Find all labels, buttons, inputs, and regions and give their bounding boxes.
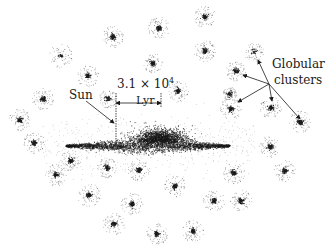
galaxy-diagram <box>0 0 329 249</box>
globular-cluster <box>259 136 278 157</box>
globular-cluster-halo <box>9 6 311 244</box>
globular-cluster <box>148 17 169 38</box>
globular-cluster <box>103 213 125 235</box>
globular-cluster <box>9 109 31 131</box>
globular-cluster <box>146 223 167 244</box>
globular-cluster <box>78 184 101 206</box>
globular-arrow <box>238 84 269 102</box>
annotations <box>86 60 300 146</box>
globular-arrow <box>269 84 300 119</box>
globular-cluster <box>128 159 150 181</box>
globular-cluster <box>144 54 163 73</box>
scale-exponent: 4 <box>169 76 174 85</box>
sun-arrow <box>86 101 114 123</box>
sun-label: Sun <box>69 89 93 101</box>
globular-cluster <box>226 61 245 81</box>
globular-cluster <box>78 66 100 88</box>
globular-cluster <box>289 111 311 133</box>
scale-value-label: 3.1 × 104 <box>117 77 174 90</box>
globular-cluster <box>245 43 263 62</box>
globular-cluster <box>100 91 117 109</box>
globular-cluster <box>183 220 204 242</box>
globular-cluster <box>50 44 73 68</box>
globular-cluster <box>274 160 296 182</box>
globular-cluster <box>203 191 225 211</box>
globular-clusters-label-line1: Globular <box>272 58 325 70</box>
globular-cluster <box>97 159 117 179</box>
galactic-disk <box>41 103 255 193</box>
globular-cluster <box>260 98 282 117</box>
globular-clusters-label-line2: clusters <box>274 74 322 86</box>
globular-cluster <box>194 41 215 62</box>
globular-cluster <box>230 190 252 211</box>
globular-cluster <box>32 88 54 110</box>
globular-cluster <box>164 176 185 197</box>
globular-cluster <box>104 26 125 48</box>
scale-mantissa: 3.1 × 10 <box>117 77 169 91</box>
globular-cluster <box>45 164 67 186</box>
globular-cluster <box>24 133 45 154</box>
scale-unit-label: Lyr <box>136 95 155 106</box>
globular-cluster <box>61 150 82 171</box>
globular-cluster <box>220 98 242 119</box>
globular-cluster <box>195 6 215 27</box>
globular-cluster <box>223 164 245 185</box>
globular-cluster <box>121 193 144 215</box>
